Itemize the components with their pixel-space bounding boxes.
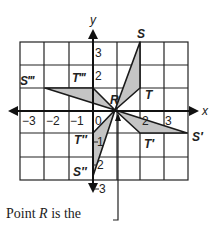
point-label-T-double-prime: T″ (74, 133, 88, 147)
y-axis-label: y (89, 13, 97, 27)
y-axis-up-arrow-icon (88, 29, 98, 39)
triangle-RST (115, 42, 140, 110)
y-axis-down-arrow-icon (88, 183, 98, 193)
caption-variable: R (39, 206, 48, 221)
point-label-T: T (145, 88, 154, 102)
y-tick-label: 2 (95, 69, 102, 83)
caption-text: Point R is the (6, 206, 81, 222)
x-tick-label: 0 (95, 114, 102, 128)
point-label-T-triple-prime: T‴ (72, 71, 86, 85)
triangle-RS1T1 (115, 110, 187, 133)
point-label-S-prime: S′ (192, 130, 204, 144)
y-tick-label: 1 (97, 135, 104, 149)
y-tick-label: 3 (95, 46, 102, 60)
x-tick-label: 3 (165, 114, 172, 128)
x-tick-label: −1 (70, 114, 84, 128)
point-label-R: R (110, 93, 119, 107)
point-label-T-prime: T′ (144, 137, 155, 151)
x-tick-label: −3 (22, 114, 36, 128)
caption-prefix: Point (6, 206, 39, 221)
triangles (45, 42, 187, 176)
x-axis-right-arrow-icon (189, 106, 199, 116)
x-axis-left-arrow-icon (8, 106, 18, 116)
triangle-RS3T3 (45, 88, 115, 110)
point-label-S-double-prime: S″ (73, 165, 88, 179)
x-axis-label: x (201, 104, 209, 118)
point-label-S: S (137, 27, 145, 41)
y-tick-label: 3 (99, 182, 106, 196)
y-tick-label: 2 (97, 158, 104, 172)
coordinate-plane-figure: x y −3 −2 −1 0 2 3 3 2 1 2 3 R S T S′ T′… (0, 0, 216, 225)
x-tick-label: −2 (46, 114, 60, 128)
point-label-S-triple-prime: S‴ (20, 74, 35, 88)
x-tick-label: 2 (142, 114, 149, 128)
caption-suffix: is the (48, 206, 81, 221)
